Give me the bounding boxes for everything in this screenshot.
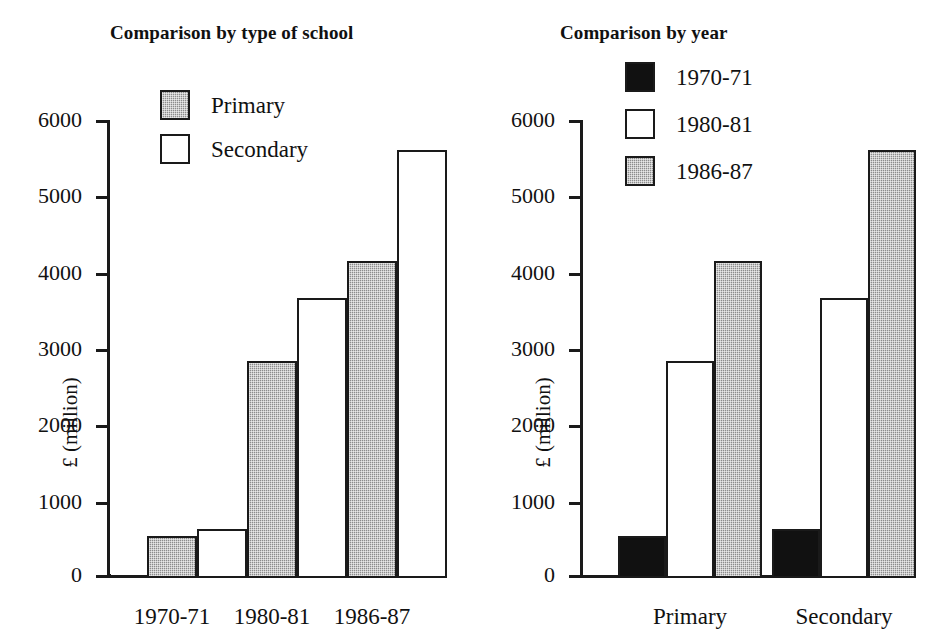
x-label-primary: Primary — [653, 604, 727, 630]
y-axis-label-left: £ (million) — [58, 377, 83, 467]
legend-label-primary: Primary — [211, 94, 285, 117]
y-tick-4000-right: 4000 — [569, 273, 580, 276]
bar-1986-87-secondary — [868, 150, 916, 578]
bar-1986-87-primary — [714, 261, 762, 578]
y-tick-label-5000-right: 5000 — [511, 185, 555, 207]
y-tick-label-1000-left: 1000 — [38, 491, 82, 513]
y-tick-1000-left: 1000 — [96, 502, 107, 505]
x-label-1980-81: 1980-81 — [234, 604, 311, 630]
gray-swatch-icon — [160, 90, 190, 120]
plot-area-right: 6000 5000 4000 3000 2000 1000 0 £ (milli… — [580, 120, 910, 578]
y-tick-2000-right: 2000 — [569, 425, 580, 428]
y-tick-label-6000-right: 6000 — [511, 109, 555, 131]
y-axis-label-right: £ (million) — [531, 377, 556, 467]
chart-title-left: Comparison by type of school — [110, 22, 353, 44]
y-tick-1000-right: 1000 — [569, 502, 580, 505]
y-tick-5000-right: 5000 — [569, 196, 580, 199]
y-axis-line-right — [580, 120, 583, 578]
chart-panel-left: Comparison by type of school Primary Sec… — [0, 0, 463, 640]
bar-secondary-1970-71 — [197, 529, 247, 578]
bar-1970-71-secondary — [772, 529, 820, 578]
y-tick-4000-left: 4000 — [96, 273, 107, 276]
x-label-1970-71: 1970-71 — [134, 604, 211, 630]
bar-primary-1970-71 — [147, 536, 197, 578]
y-tick-3000-left: 3000 — [96, 349, 107, 352]
bar-1980-81-primary — [666, 361, 714, 578]
bar-primary-1986-87 — [347, 261, 397, 578]
y-axis-line-left — [107, 120, 110, 578]
bar-secondary-1980-81 — [297, 298, 347, 578]
bar-1970-71-primary — [618, 536, 666, 578]
chart-panel-right: Comparison by year 1970-71 1980-81 1986-… — [463, 0, 926, 640]
y-tick-0-right: 0 — [569, 575, 580, 578]
y-tick-label-4000-right: 4000 — [511, 262, 555, 284]
bar-1980-81-secondary — [820, 298, 868, 578]
y-tick-label-0-left: 0 — [71, 564, 82, 586]
bar-secondary-1986-87 — [397, 150, 447, 578]
y-tick-6000-left: 6000 — [96, 120, 107, 123]
y-axis-top-cap-left — [107, 120, 110, 131]
legend-label-1970-71: 1970-71 — [676, 66, 753, 89]
y-tick-label-3000-right: 3000 — [511, 338, 555, 360]
plot-area-left: 6000 5000 4000 3000 2000 1000 0 £ (milli… — [107, 120, 443, 578]
bar-primary-1980-81 — [247, 361, 297, 578]
chart-title-right: Comparison by year — [560, 22, 728, 44]
x-label-secondary: Secondary — [795, 604, 892, 630]
y-tick-label-0-right: 0 — [544, 564, 555, 586]
y-tick-0-left: 0 — [96, 575, 107, 578]
y-tick-label-6000-left: 6000 — [38, 109, 82, 131]
legend-item-1970-71: 1970-71 — [625, 62, 753, 92]
y-tick-label-5000-left: 5000 — [38, 185, 82, 207]
black-swatch-icon — [625, 62, 655, 92]
y-axis-top-cap-right — [580, 120, 583, 131]
y-tick-3000-right: 3000 — [569, 349, 580, 352]
y-tick-label-3000-left: 3000 — [38, 338, 82, 360]
y-tick-5000-left: 5000 — [96, 196, 107, 199]
y-tick-label-4000-left: 4000 — [38, 262, 82, 284]
x-label-1986-87: 1986-87 — [334, 604, 411, 630]
y-tick-2000-left: 2000 — [96, 425, 107, 428]
legend-item-primary: Primary — [160, 90, 308, 120]
y-tick-6000-right: 6000 — [569, 120, 580, 123]
y-tick-label-1000-right: 1000 — [511, 491, 555, 513]
